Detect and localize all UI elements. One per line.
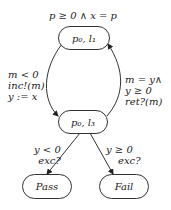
edge-label-right: m = y∧ y ≥ 0 ret?(m) (125, 74, 162, 107)
edge-mid-to-top (107, 44, 121, 116)
state-fail: Fail (99, 174, 149, 199)
edge-top-to-mid (46, 44, 62, 116)
edge-label-line: y < 0 (26, 144, 61, 155)
initial-condition: p ≥ 0 ∧ x = p (49, 10, 117, 21)
state-pass: Pass (22, 174, 72, 199)
edge-label-line: ret?(m) (125, 96, 162, 107)
edge-label-line: exc? (106, 155, 141, 166)
edge-label-to-fail: y ≥ 0 exc? (106, 144, 141, 166)
edge-label-line: m = y∧ (125, 74, 162, 85)
edge-label-line: y := x (8, 91, 45, 102)
state-label: Pass (36, 181, 59, 192)
edge-label-left: m < 0 inc!(m) y := x (8, 69, 45, 102)
edge-label-line: m < 0 (8, 69, 45, 80)
state-label: p₀, l₃ (71, 117, 95, 128)
edge-label-to-pass: y < 0 exc? (26, 144, 61, 166)
state-label: p₀, l₁ (72, 33, 96, 44)
edge-label-line: inc!(m) (8, 80, 45, 91)
state-label: Fail (115, 181, 134, 192)
state-p0-l1: p₀, l₁ (58, 26, 110, 50)
edge-label-line: exc? (26, 155, 61, 166)
state-p0-l3: p₀, l₃ (58, 110, 108, 134)
edge-label-line: y ≥ 0 (125, 85, 162, 96)
edge-label-line: y ≥ 0 (106, 144, 141, 155)
